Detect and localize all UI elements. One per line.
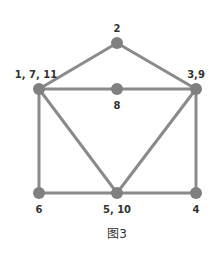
node-label: 3,9 <box>187 69 205 80</box>
edge-n1711-n2 <box>39 43 117 89</box>
node-label: 2 <box>114 23 121 34</box>
graph-diagram: 21, 7, 1183,965, 104 图3 <box>0 0 215 255</box>
graph-node: 4 <box>190 187 202 215</box>
node-dot <box>190 83 202 95</box>
node-dot <box>33 83 45 95</box>
node-label: 6 <box>36 204 43 215</box>
node-label: 8 <box>114 100 121 111</box>
graph-node: 8 <box>111 83 123 111</box>
node-label: 5, 10 <box>103 204 131 215</box>
graph-node: 6 <box>33 187 45 215</box>
edge-n1711-n510 <box>39 89 117 193</box>
node-dot <box>111 187 123 199</box>
node-label: 4 <box>193 204 200 215</box>
figure-caption: 图3 <box>107 227 127 241</box>
edge-n39-n510 <box>117 89 196 193</box>
edge-n2-n39 <box>117 43 196 89</box>
graph-node: 5, 10 <box>103 187 131 215</box>
node-dot <box>111 83 123 95</box>
nodes-group: 21, 7, 1183,965, 104 <box>15 23 205 215</box>
node-dot <box>33 187 45 199</box>
graph-node: 2 <box>111 23 123 49</box>
edges-group <box>39 43 196 193</box>
node-dot <box>111 37 123 49</box>
graph-node: 3,9 <box>187 69 205 95</box>
node-label: 1, 7, 11 <box>15 69 57 80</box>
node-dot <box>190 187 202 199</box>
